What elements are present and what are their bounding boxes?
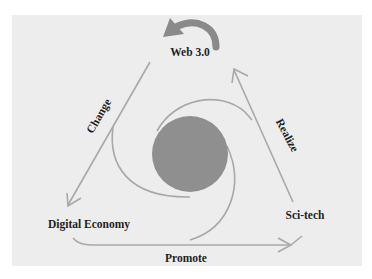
node-digital-economy: Digital Economy bbox=[48, 218, 130, 231]
change-arrow bbox=[67, 62, 150, 206]
edge-label-promote: Promote bbox=[165, 252, 207, 264]
promote-arrow bbox=[73, 236, 302, 252]
node-sci-tech: Sci-tech bbox=[286, 209, 326, 221]
edge-label-change: Change bbox=[84, 97, 114, 136]
center-circle bbox=[152, 116, 228, 192]
curved-arrow-icon bbox=[163, 18, 216, 47]
cycle-diagram: Web 3.0 Digital Economy Sci-tech Change … bbox=[0, 0, 372, 279]
node-web3: Web 3.0 bbox=[170, 46, 210, 58]
edge-label-realize: Realize bbox=[274, 117, 301, 154]
